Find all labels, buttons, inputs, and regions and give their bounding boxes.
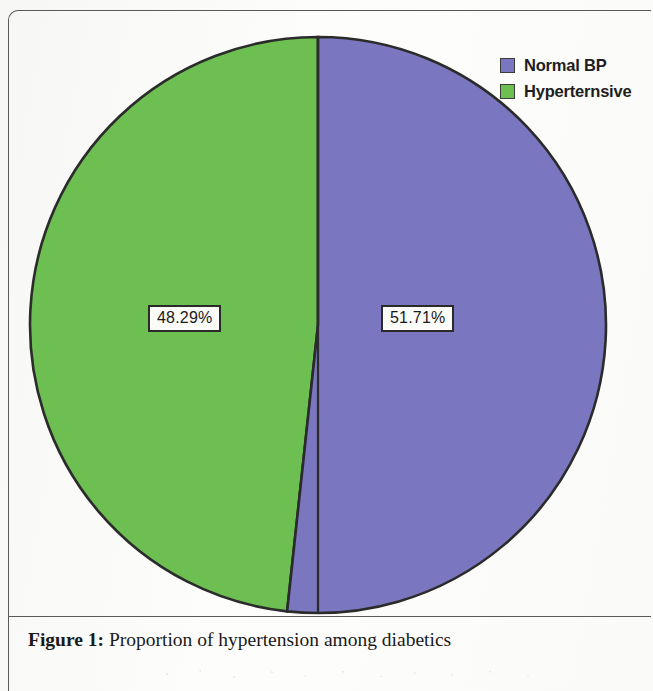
legend-swatch-hyperternsive: [500, 84, 515, 99]
chart-legend: Normal BP Hyperternsive: [500, 52, 650, 104]
legend-item-hyperternsive[interactable]: Hyperternsive: [500, 78, 650, 104]
legend-label-normal-bp: Normal BP: [524, 56, 607, 75]
slice-label-normal-bp: 51.71%: [381, 305, 454, 332]
pie-chart-svg: [22, 35, 618, 615]
legend-label-hyperternsive: Hyperternsive: [524, 82, 631, 101]
figure-bottom-rule: [8, 616, 651, 617]
pie-chart: 48.29% 51.71% Normal BP Hyperternsive: [0, 0, 653, 615]
slice-label-hyperternsive: 48.29%: [148, 305, 221, 332]
legend-swatch-normal-bp: [500, 58, 515, 73]
legend-item-normal-bp[interactable]: Normal BP: [500, 52, 650, 78]
figure-caption: Figure 1: Proportion of hypertension amo…: [28, 629, 451, 651]
figure-caption-text: Proportion of hypertension among diabeti…: [104, 629, 451, 650]
figure-caption-label: Figure 1:: [28, 629, 104, 650]
figure-left-rule-lower: [8, 616, 9, 691]
